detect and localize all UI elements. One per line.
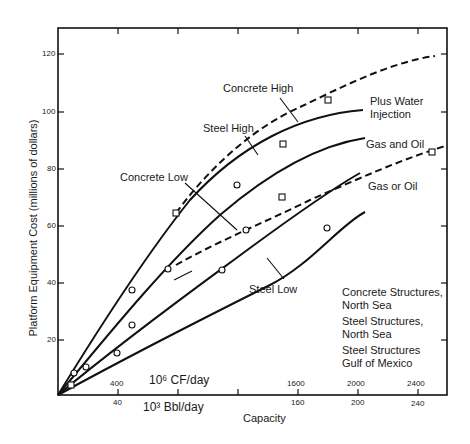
label-plus-water: Plus Water <box>370 95 423 108</box>
circle-markers <box>71 182 330 376</box>
y-tick-100: 100 <box>42 107 55 116</box>
label-injection: Injection <box>370 108 411 121</box>
label-gas-or-oil: Gas or Oil <box>368 180 418 193</box>
x-tick-40: 40 <box>113 398 122 407</box>
x-axis-label: Capacity <box>243 412 286 425</box>
legend-steel-north-sea: Steel Structures, North Sea <box>342 315 443 341</box>
x-top-tick-2000: 2000 <box>347 379 365 388</box>
curve-steel-low <box>58 212 365 395</box>
x-primary-unit: 10³ Bbl/day <box>143 401 204 414</box>
label-gas-and-oil: Gas and Oil <box>366 138 424 151</box>
y-tick-40: 40 <box>47 278 56 287</box>
y-tick-20: 20 <box>47 335 56 344</box>
arrow-steel-low <box>267 258 284 279</box>
label-steel-low: Steel Low <box>249 283 297 296</box>
label-concrete-high: Concrete High <box>223 82 293 95</box>
curve-gas-and-oil <box>58 138 365 395</box>
x-secondary-unit: 10⁶ CF/day <box>149 374 209 387</box>
x-top-tick-2400: 2400 <box>407 379 425 388</box>
x-tick-200: 200 <box>351 398 364 407</box>
y-tick-80: 80 <box>47 164 56 173</box>
legend: Concrete Structures, North Sea Steel Str… <box>342 286 443 373</box>
x-top-tick-1600: 1600 <box>287 379 305 388</box>
legend-steel-gulf-of-mexico: Steel Structures Gulf of Mexico <box>342 344 443 370</box>
arrow-concrete-low-tail <box>174 271 192 280</box>
label-concrete-low: Concrete Low <box>120 171 188 184</box>
chart-plot <box>0 0 470 444</box>
x-top-tick-400: 400 <box>110 379 123 388</box>
y-axis-label: Platform Equipment Cost (millions of dol… <box>27 119 39 336</box>
curve-gas-or-oil <box>58 173 360 395</box>
x-tick-240: 240 <box>411 399 424 408</box>
label-steel-high: Steel High <box>203 122 254 135</box>
y-tick-120: 120 <box>42 49 55 58</box>
legend-concrete-north-sea: Concrete Structures, North Sea <box>342 286 443 312</box>
y-tick-60: 60 <box>47 221 56 230</box>
x-tick-160: 160 <box>291 398 304 407</box>
